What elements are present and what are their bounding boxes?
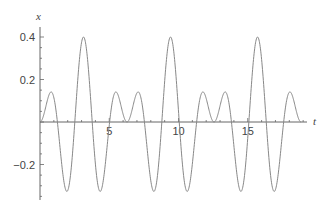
y-tick-label: −0.2 <box>13 159 35 171</box>
x-axis-label: t <box>313 115 317 127</box>
line-chart: 0.40.2−0.2 51015 x t <box>0 0 333 206</box>
y-tick-label: 0.2 <box>20 74 35 86</box>
x-tick-label: 10 <box>172 125 184 137</box>
y-tick-label: 0.4 <box>20 31 35 43</box>
y-axis-label: x <box>35 10 41 22</box>
data-series-line <box>40 37 301 191</box>
y-axis: 0.40.2−0.2 <box>13 27 44 200</box>
